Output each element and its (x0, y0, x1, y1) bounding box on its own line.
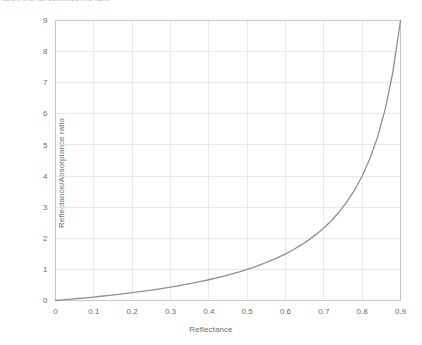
x-axis-tick-label: 0.2 (127, 307, 139, 316)
x-axis-tick-label: 0.4 (203, 307, 215, 316)
data-curve-reflectance-ratio (56, 21, 401, 301)
y-axis-tick-label: 4 (43, 172, 48, 181)
gridlines (56, 21, 401, 301)
x-axis-tick-label: 0.5 (242, 307, 254, 316)
y-axis-ticks: 0123456789 (43, 16, 48, 305)
plot-canvas: 0123456789 00.10.20.30.40.50.60.70.80.9 (0, 0, 422, 345)
y-axis-tick-label: 5 (43, 141, 48, 150)
y-axis-tick-label: 0 (43, 296, 48, 305)
y-axis-tick-label: 7 (43, 78, 48, 87)
plot-frame (56, 21, 401, 301)
y-axis-tick-label: 6 (43, 109, 48, 118)
y-axis-tick-label: 9 (43, 16, 48, 25)
x-axis-tick-label: 0.8 (357, 307, 369, 316)
y-axis-tick-label: 3 (43, 203, 48, 212)
x-axis-tick-label: 0.1 (88, 307, 100, 316)
x-axis-ticks: 00.10.20.30.40.50.60.70.80.9 (53, 307, 406, 316)
x-axis-tick-label: 0.7 (318, 307, 330, 316)
y-axis-tick-label: 8 (43, 47, 48, 56)
x-axis-tick-label: 0.3 (165, 307, 177, 316)
x-axis-tick-label: 0 (53, 307, 58, 316)
x-axis-tick-label: 0.9 (395, 307, 407, 316)
x-axis-tick-label: 0.6 (280, 307, 292, 316)
y-axis-tick-label: 1 (43, 265, 48, 274)
chart-figure: Reflectance/Absorptance ratio Reflectanc… (0, 0, 422, 345)
y-axis-tick-label: 2 (43, 234, 48, 243)
